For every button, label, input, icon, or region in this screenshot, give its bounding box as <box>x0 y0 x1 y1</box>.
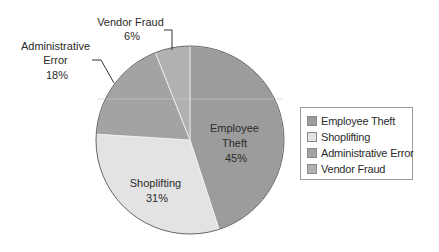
legend-label: Administrative Error <box>321 147 414 159</box>
leader-line-administrative-error <box>92 60 114 83</box>
label-vendor-fraud: Vendor Fraud 6% <box>97 16 167 42</box>
legend-swatch-shoplifting <box>307 132 317 142</box>
legend-item-shoplifting: Shoplifting <box>307 129 412 145</box>
legend-item-employee-theft: Employee Theft <box>307 113 412 129</box>
legend-label: Vendor Fraud <box>321 163 385 175</box>
leader-line-vendor-fraud <box>164 30 172 50</box>
legend-item-administrative-error: Administrative Error <box>307 145 412 161</box>
chart-legend: Employee Theft Shoplifting Administrativ… <box>300 107 413 180</box>
legend-swatch-vendor-fraud <box>307 164 317 174</box>
legend-label: Shoplifting <box>321 131 370 143</box>
legend-swatch-administrative-error <box>307 148 317 158</box>
label-administrative-error: Administrative Error 18% <box>21 40 93 81</box>
legend-item-vendor-fraud: Vendor Fraud <box>307 161 412 177</box>
legend-swatch-employee-theft <box>307 116 317 126</box>
legend-label: Employee Theft <box>321 115 395 127</box>
